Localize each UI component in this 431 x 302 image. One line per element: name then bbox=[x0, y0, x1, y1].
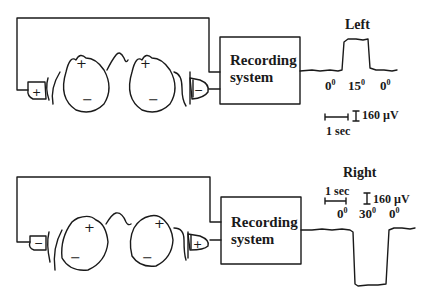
bottom-right-electrode-sign: + bbox=[193, 238, 202, 251]
top-right-electrode-sign: − bbox=[194, 84, 203, 97]
bottom-nose bbox=[106, 213, 131, 225]
eye-signs: + − + − + − + − + − − + bbox=[32, 56, 203, 265]
top-left-eye-plus: + bbox=[76, 56, 87, 71]
top-left-eye-minus: − bbox=[82, 92, 93, 107]
bottom-box-label-line2: system bbox=[231, 231, 274, 248]
top-time-scale-label: 1 sec bbox=[326, 124, 350, 139]
eog-diagram: + − + − + − + − + − − + bbox=[0, 0, 431, 302]
bottom-left-eye-minus: − bbox=[70, 250, 81, 265]
bottom-right-eye-minus: − bbox=[142, 250, 153, 265]
bottom-time-scale-label: 1 sec bbox=[325, 184, 349, 199]
bottom-angle-label-3: 00 bbox=[389, 206, 400, 222]
top-voltage-scale-bar bbox=[353, 111, 359, 121]
top-angle-label-1: 00 bbox=[325, 78, 336, 94]
top-time-scale-bar bbox=[325, 114, 348, 120]
top-waveform bbox=[300, 39, 397, 71]
bottom-left-electrode-sign: − bbox=[34, 237, 43, 250]
bottom-voltage-scale-bar bbox=[364, 193, 370, 204]
top-voltage-scale-label: 160 µV bbox=[362, 108, 399, 123]
bottom-right-eye-plus: + bbox=[154, 216, 165, 231]
top-box-label-line2: system bbox=[230, 69, 273, 86]
bottom-angle-label-2: 300 bbox=[359, 206, 376, 222]
top-left-electrode-sign: + bbox=[32, 86, 41, 99]
top-right-eye-plus: + bbox=[140, 56, 151, 71]
bottom-waveform bbox=[301, 228, 415, 286]
bottom-left-eye-plus: + bbox=[84, 220, 95, 235]
bottom-panel-title: Right bbox=[343, 165, 376, 181]
bottom-wire bbox=[17, 177, 221, 242]
top-panel-title: Left bbox=[345, 17, 370, 33]
bottom-voltage-scale-label: 160 µV bbox=[373, 192, 410, 207]
bottom-box-label-line1: Recording bbox=[231, 214, 298, 231]
bottom-angle-label-1: 00 bbox=[337, 206, 348, 222]
top-angle-label-2: 150 bbox=[348, 78, 365, 94]
top-box-label-line1: Recording bbox=[230, 52, 297, 69]
top-right-eye-minus: − bbox=[148, 92, 159, 107]
top-nose bbox=[107, 53, 128, 70]
top-angle-label-3: 00 bbox=[380, 78, 391, 94]
